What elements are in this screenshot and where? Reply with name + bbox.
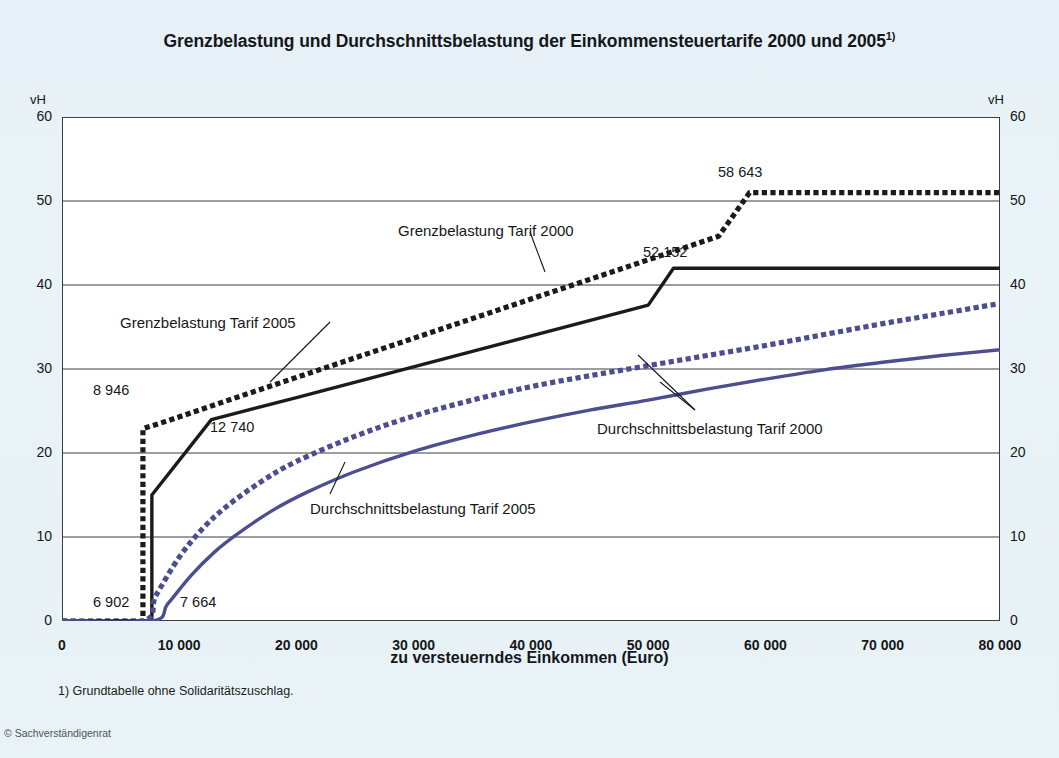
value-label-v12740: 12 740 [210,419,254,435]
value-label-v8946: 8 946 [93,382,129,398]
value-label-v7664: 7 664 [180,594,216,610]
y-tick-label-right: 60 [1010,108,1050,124]
y-axis-unit-left: vH [30,92,46,107]
y-tick-label-left: 60 [22,108,52,124]
value-label-v58643: 58 643 [718,164,762,180]
y-tick-label-left: 20 [22,444,52,460]
y-tick-label-left: 10 [22,528,52,544]
footnote: 1) Grundtabelle ohne Solidaritätszuschla… [58,684,294,698]
page-title: Grenzbelastung und Durchschnittsbelastun… [0,30,1059,52]
plot-area [62,117,1000,621]
value-label-v52152: 52 152 [643,244,687,260]
y-tick-label-right: 50 [1010,192,1050,208]
y-tick-label-right: 40 [1010,276,1050,292]
copyright-notice: © Sachverständigenrat [4,727,111,739]
y-tick-label-right: 20 [1010,444,1050,460]
series-line-durchschnittsbelastung-tarif-2000 [62,303,1000,621]
value-label-v6902: 6 902 [93,594,129,610]
series-callout-grenz2005: Grenzbelastung Tarif 2005 [120,314,296,331]
title-footnote-marker: 1) [886,30,896,42]
y-tick-label-right: 10 [1010,528,1050,544]
y-tick-label-left: 30 [22,360,52,376]
series-callout-durch2005: Durchschnittsbelastung Tarif 2005 [310,500,536,517]
y-tick-label-right: 0 [1010,612,1050,628]
y-axis-unit-right: vH [988,92,1004,107]
series-callout-durch2000: Durchschnittsbelastung Tarif 2000 [597,420,823,437]
series-line-grenzbelastung-tarif-2000 [62,193,1000,621]
y-tick-label-left: 40 [22,276,52,292]
series-callout-grenz2000: Grenzbelastung Tarif 2000 [398,222,574,239]
y-tick-label-right: 30 [1010,360,1050,376]
y-tick-label-left: 0 [22,612,52,628]
x-axis-label: zu versteuerndes Einkommen (Euro) [0,649,1059,667]
series-line-durchschnittsbelastung-tarif-2005 [62,350,1000,621]
y-tick-label-left: 50 [22,192,52,208]
chart-canvas [62,117,1000,621]
chart-title-text: Grenzbelastung und Durchschnittsbelastun… [164,31,886,51]
